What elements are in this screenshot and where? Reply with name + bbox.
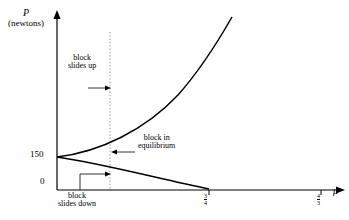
x-tick-label-1: 3 4	[203, 190, 208, 207]
physics-graph-figure: P (newtons) μ 150 0 3 4 4 3 block slides…	[0, 0, 349, 220]
slides-down-leader-line	[80, 174, 106, 190]
annotation-slides-down: block slides down	[58, 192, 96, 209]
x-tick-1-denominator: 4	[203, 200, 208, 206]
graph-canvas	[0, 0, 349, 220]
y-axis-arrowhead	[53, 10, 60, 19]
annotation-equilibrium: block in equilibrium	[138, 134, 175, 151]
y-tick-label-0: 0	[40, 177, 45, 186]
x-tick-2-numerator: 4	[316, 193, 321, 199]
y-axis-units: (newtons)	[8, 19, 44, 28]
y-tick-label-150: 150	[30, 150, 44, 159]
annotation-equilibrium-line2: equilibrium	[138, 142, 175, 150]
y-axis-symbol: P	[8, 8, 44, 19]
annotation-slides-up: block slides up	[68, 54, 96, 71]
equilibrium-arrowhead	[111, 150, 117, 155]
slides-up-arrowhead	[105, 86, 111, 91]
y-axis-label: P (newtons)	[8, 8, 44, 28]
x-tick-2-denominator: 3	[316, 200, 321, 206]
annotation-slides-up-line2: slides up	[68, 62, 96, 70]
x-tick-1-numerator: 3	[203, 193, 208, 199]
x-axis-label: μ	[333, 186, 338, 197]
x-tick-label-2: 4 3	[316, 190, 321, 207]
slides-down-arrowhead	[105, 172, 111, 177]
annotation-slides-down-line2: slides down	[58, 200, 96, 208]
